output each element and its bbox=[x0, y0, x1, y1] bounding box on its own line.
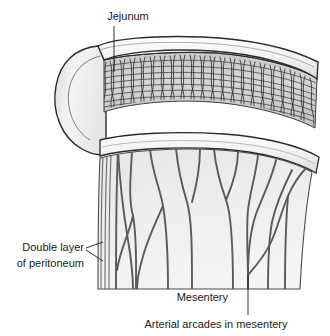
label-double-layer-line1: Double layer bbox=[22, 241, 84, 253]
label-arterial-arcades: Arterial arcades in mesentery bbox=[144, 318, 288, 330]
label-mesentery: Mesentery bbox=[177, 291, 229, 303]
label-jejunum: Jejunum bbox=[107, 10, 149, 22]
jejunum-mucosa bbox=[103, 52, 317, 142]
anatomical-figure: Jejunum Double layer of peritoneum Mesen… bbox=[0, 0, 330, 336]
left-cap-surface bbox=[55, 46, 106, 155]
jejunum-mesentery-illustration: Jejunum Double layer of peritoneum Mesen… bbox=[0, 0, 330, 336]
jejunum-left-cap bbox=[55, 46, 106, 155]
label-double-layer-line2: of peritoneum bbox=[17, 257, 84, 269]
mesentery-group bbox=[98, 148, 312, 289]
